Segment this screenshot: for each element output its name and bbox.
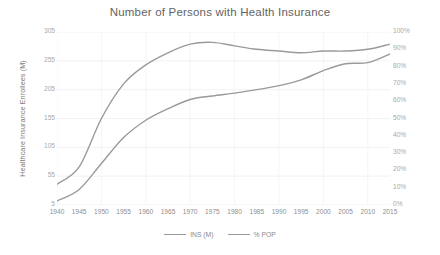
legend-item-pop[interactable]: % POP <box>228 231 276 238</box>
y-left-tick-label: 305 <box>30 28 55 35</box>
series-line-1[interactable] <box>57 54 390 201</box>
legend-label-ins: INS (M) <box>190 231 213 238</box>
y-left-tick-label: 155 <box>30 115 55 122</box>
y-right-tick-label: 60% <box>393 97 433 104</box>
x-tick-label: 1995 <box>294 208 309 215</box>
x-tick-label: 1955 <box>116 208 131 215</box>
x-tick-label: 1990 <box>272 208 287 215</box>
x-tick-label: 2015 <box>383 208 398 215</box>
gridlines <box>57 32 390 205</box>
legend-line-swatch-pop <box>228 234 250 236</box>
x-tick-label: 1980 <box>227 208 242 215</box>
y-right-tick-label: 20% <box>393 166 433 173</box>
y-left-tick-label: 55 <box>30 172 55 179</box>
x-tick-label: 2010 <box>360 208 375 215</box>
y-right-tick-label: 50% <box>393 115 433 122</box>
x-tick-label: 1975 <box>205 208 220 215</box>
chart-container: Number of Persons with Health Insurance … <box>0 0 440 255</box>
y-right-tick-label: 40% <box>393 132 433 139</box>
y-right-tick-label: 90% <box>393 45 433 52</box>
series-line-2[interactable] <box>57 42 390 184</box>
x-tick-label: 1985 <box>249 208 264 215</box>
y-left-tick-label: 5 <box>30 201 55 208</box>
x-tick-label: 1970 <box>183 208 198 215</box>
y-right-tick-label: 80% <box>393 63 433 70</box>
x-tick-label: 1945 <box>72 208 87 215</box>
legend-item-ins[interactable]: INS (M) <box>164 231 213 238</box>
x-tick-label: 1950 <box>94 208 109 215</box>
y-right-tick-label: 30% <box>393 149 433 156</box>
x-tick-label: 1965 <box>161 208 176 215</box>
y-left-tick-label: 205 <box>30 86 55 93</box>
y-right-tick-label: 0% <box>393 201 433 208</box>
y-left-tick-label: 105 <box>30 143 55 150</box>
chart-title: Number of Persons with Health Insurance <box>0 6 440 18</box>
legend-line-swatch-ins <box>164 234 186 236</box>
x-tick-label: 1940 <box>50 208 65 215</box>
chart-plot-svg <box>57 32 390 205</box>
y-right-tick-label: 70% <box>393 80 433 87</box>
y-left-tick-label: 255 <box>30 57 55 64</box>
y-axis-title: Healthcare Insurance Enrollees (M) <box>18 39 27 199</box>
y-axis-right-ticks: 100%90%80%70%60%50%40%30%20%10%0% <box>393 32 433 205</box>
x-tick-label: 2000 <box>316 208 331 215</box>
x-axis-ticks: 1940194519501955196019651970197519801985… <box>57 208 390 222</box>
plot-area <box>57 32 390 205</box>
data-series-layer <box>57 42 390 201</box>
x-tick-label: 2005 <box>338 208 353 215</box>
y-right-tick-label: 10% <box>393 184 433 191</box>
chart-legend: INS (M) % POP <box>0 231 440 238</box>
x-tick-label: 1960 <box>138 208 153 215</box>
legend-label-pop: % POP <box>254 231 276 238</box>
y-right-tick-label: 100% <box>393 28 433 35</box>
y-axis-left-ticks: 305255205155105555 <box>30 32 55 205</box>
